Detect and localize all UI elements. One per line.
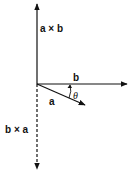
label-a-cross-b: a × b (40, 23, 63, 34)
cross-product-diagram: a × b b a θ b × a (0, 0, 137, 173)
label-b-cross-a: b × a (5, 124, 29, 135)
label-b: b (73, 72, 79, 83)
angle-arrowhead (68, 85, 73, 89)
label-a: a (49, 96, 55, 107)
label-theta: θ (73, 90, 78, 101)
